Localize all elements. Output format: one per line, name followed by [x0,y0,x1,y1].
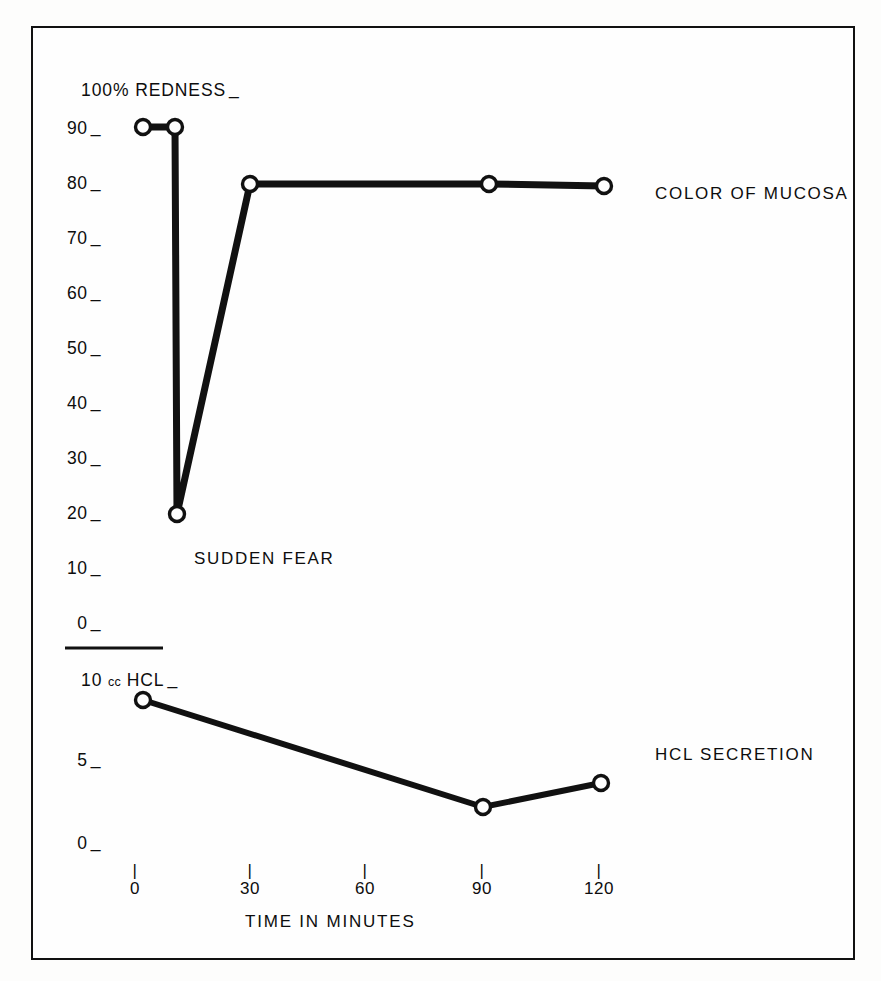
marker-hcl-t90 [476,800,491,815]
chart-graphics [33,28,857,962]
marker-hcl-t0 [136,693,151,708]
marker-mucosa-t8 [168,120,183,135]
trace-color-of-mucosa [143,127,604,514]
marker-mucosa-t0 [136,120,151,135]
marker-mucosa-t30 [243,177,258,192]
marker-hcl-t120 [594,776,609,791]
plot-surface: 100% REDNESS_ 90_ 80_ 70_ 60_ 50_ 40_ 30… [33,28,853,958]
marker-mucosa-dip [170,507,185,522]
figure-frame: 100% REDNESS_ 90_ 80_ 70_ 60_ 50_ 40_ 30… [31,26,855,960]
trace-hcl-secretion [143,700,601,807]
figure-page: 100% REDNESS_ 90_ 80_ 70_ 60_ 50_ 40_ 30… [0,0,881,981]
marker-mucosa-t120 [597,179,612,194]
marker-mucosa-t90 [482,177,497,192]
